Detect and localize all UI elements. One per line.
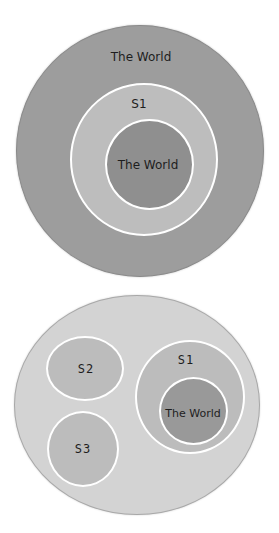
top-s1-label: S1 [131,98,146,110]
nested-sets-diagram: The World S1 The World S2 S3 S1 The Worl… [0,0,279,533]
bottom-inner-world-label: The World [165,408,220,419]
bottom-s1-label: S1 [178,354,194,366]
bottom-s2-label: S2 [78,363,94,375]
top-outer-world-label: The World [111,51,172,63]
top-inner-world-label: The World [118,159,179,171]
bottom-s3-label: S3 [75,443,91,455]
